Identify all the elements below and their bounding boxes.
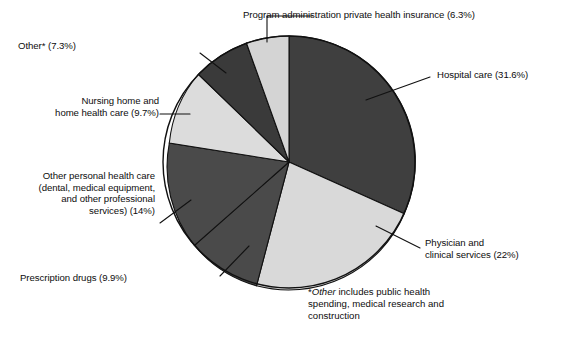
footnote: *Other includes public health spending, … xyxy=(308,286,538,321)
footnote-line-2: spending, medical research and xyxy=(308,298,538,310)
slice-label-other-personal-health-care: Other personal health care (dental, medi… xyxy=(3,170,155,216)
slice-label-hospital-care: Hospital care (31.6%) xyxy=(437,69,565,81)
slice-label-program-administration: Program administration private health in… xyxy=(243,9,563,21)
footnote-line-3: construction xyxy=(308,310,538,322)
footnote-line-1: includes public health xyxy=(336,286,430,297)
footnote-italic-word: Other xyxy=(312,286,336,297)
slice-label-nursing-home: Nursing home and home health care (9.7%) xyxy=(5,95,159,118)
slice-label-physician-clinical: Physician and clinical services (22%) xyxy=(425,237,565,260)
pie-chart-figure: Program administration private health in… xyxy=(0,0,568,340)
slice-label-other: Other* (7.3%) xyxy=(18,40,159,52)
slice-label-prescription-drugs: Prescription drugs (9.9%) xyxy=(20,272,214,284)
